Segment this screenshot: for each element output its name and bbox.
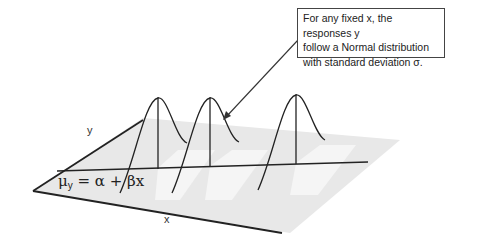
callout-line: follow a Normal distribution xyxy=(303,40,439,55)
callout-box: For any fixed x, the responses y follow … xyxy=(297,8,445,58)
callout-line: with standard deviation σ. xyxy=(303,55,439,70)
mu-symbol: μ xyxy=(58,172,68,190)
callout-line: For any fixed x, the responses y xyxy=(303,11,439,40)
mu-subscript: y xyxy=(68,180,73,191)
equation-rhs: = α + βx xyxy=(73,172,144,190)
y-axis-label: y xyxy=(87,124,93,136)
regression-equation: μy = α + βx xyxy=(58,172,144,190)
x-axis-label: x xyxy=(164,213,170,225)
